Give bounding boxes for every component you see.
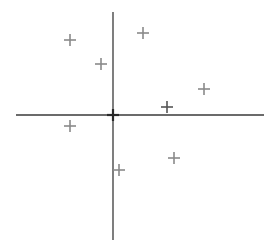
scatter-plot: [0, 0, 278, 250]
data-point-plus-icon: [198, 83, 210, 95]
data-point-plus-icon: [64, 120, 76, 132]
plot-axes: [16, 12, 264, 240]
plot-markers: [64, 27, 210, 176]
data-point-plus-icon: [95, 58, 107, 70]
data-point-plus-icon: [64, 34, 76, 46]
data-point-plus-icon: [113, 164, 125, 176]
data-point-plus-icon: [168, 152, 180, 164]
data-point-plus-icon: [137, 27, 149, 39]
origin-marker-plus-icon: [107, 109, 119, 121]
data-point-plus-icon: [161, 101, 173, 113]
